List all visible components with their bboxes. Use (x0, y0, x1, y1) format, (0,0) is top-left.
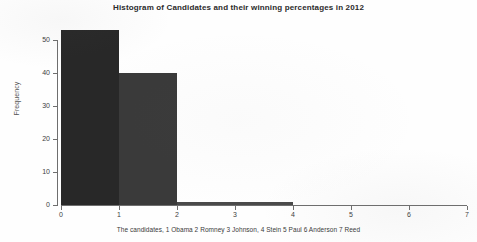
x-axis-line (61, 205, 467, 206)
x-axis-tick (293, 206, 294, 210)
x-axis-tick (61, 206, 62, 210)
x-axis-tick (467, 206, 468, 210)
x-axis-tick-label: 7 (457, 211, 477, 218)
histogram-figure: Histogram of Candidates and their winnin… (0, 0, 477, 242)
x-axis-tick-label: 5 (341, 211, 361, 218)
y-axis-tick-label: 50 (22, 36, 50, 43)
y-axis-line (57, 40, 58, 206)
histogram-bar (61, 30, 119, 205)
x-axis-tick-label: 3 (225, 211, 245, 218)
y-axis-tick-label: 40 (22, 69, 50, 76)
x-axis-tick (409, 206, 410, 210)
y-axis-tick-label: 20 (22, 135, 50, 142)
y-axis-tick-label: 0 (22, 201, 50, 208)
plot-area: 01020304050 01234567 (0, 0, 477, 242)
x-axis-tick-label: 1 (109, 211, 129, 218)
y-axis-tick-label: 10 (22, 168, 50, 175)
histogram-bar (119, 73, 177, 205)
y-axis-tick-label: 30 (22, 102, 50, 109)
x-axis-caption: The candidates, 1 Obama 2 Romney 3 Johns… (0, 226, 477, 233)
x-axis-tick-label: 0 (51, 211, 71, 218)
x-axis-tick (235, 206, 236, 210)
x-axis-tick (177, 206, 178, 210)
x-axis-tick-label: 6 (399, 211, 419, 218)
x-axis-tick-label: 2 (167, 211, 187, 218)
x-axis-tick (351, 206, 352, 210)
x-axis-tick-label: 4 (283, 211, 303, 218)
x-axis-tick (119, 206, 120, 210)
